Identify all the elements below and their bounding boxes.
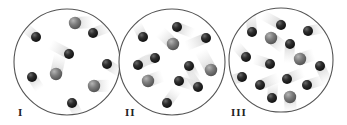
panel-label-i: I <box>18 106 23 118</box>
gray-particle <box>50 68 62 80</box>
container-ii <box>119 9 225 115</box>
dark-particle <box>172 22 182 32</box>
panel-label-iii: III <box>231 106 247 118</box>
dark-particle <box>27 72 37 82</box>
dark-particle <box>237 72 247 82</box>
dark-particle <box>302 80 312 90</box>
dark-particle <box>102 59 112 69</box>
dark-particle <box>282 74 292 84</box>
dark-particle <box>162 98 172 108</box>
dark-particle <box>138 32 148 42</box>
dark-particle <box>241 52 251 62</box>
gray-particle <box>69 17 81 29</box>
gray-particle <box>265 32 277 44</box>
dark-particle <box>184 61 194 71</box>
dark-particle <box>67 98 77 108</box>
panel-label-ii: II <box>125 106 136 118</box>
dark-particle <box>88 28 98 38</box>
dark-particle <box>265 59 275 69</box>
gray-particle <box>205 64 217 76</box>
dark-particle <box>31 32 41 42</box>
dark-particle <box>303 26 313 36</box>
container-i <box>14 9 124 119</box>
dark-particle <box>133 60 143 70</box>
dark-particle <box>276 20 286 30</box>
gas-containers-diagram <box>0 0 347 125</box>
gray-particle <box>284 91 296 103</box>
gray-particle <box>142 75 154 87</box>
gray-particle <box>167 38 179 50</box>
gray-particle <box>88 80 100 92</box>
dark-particle <box>201 33 211 43</box>
dark-particle <box>285 39 295 49</box>
dark-particle <box>193 82 203 92</box>
dark-particle <box>150 53 160 63</box>
dark-particle <box>247 27 257 37</box>
dark-particle <box>174 76 184 86</box>
dark-particle <box>267 93 277 103</box>
dark-particle <box>255 80 265 90</box>
dark-particle <box>315 61 325 71</box>
dark-particle <box>64 49 74 59</box>
gray-particle <box>294 53 306 65</box>
container-iii <box>225 8 333 112</box>
